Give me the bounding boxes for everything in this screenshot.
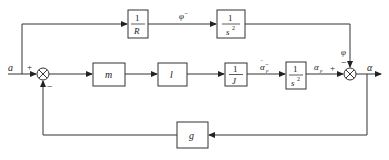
block-R-num: 1: [135, 13, 140, 23]
input-label: a: [8, 62, 13, 73]
block-s2-main-sup: 2: [297, 76, 300, 82]
output-label: α: [367, 62, 373, 73]
block-diagram: a + − m l 1 J 1 s 2 1 R 1 s 2 g φ̈ α̈ p …: [0, 0, 389, 160]
block-g-label: g: [189, 130, 194, 141]
phi-label: φ: [341, 47, 346, 57]
sum2-plus-sign: +: [330, 63, 335, 73]
block-s2-top-num: 1: [228, 13, 233, 23]
block-l-label: l: [170, 69, 173, 80]
block-s2-main-den: s: [291, 78, 295, 88]
block-s2-top-den: s: [226, 27, 230, 37]
sum1-plus-sign: +: [27, 62, 32, 72]
summing-junction-2: [344, 68, 356, 80]
sum1-minus-sign: −: [47, 81, 53, 92]
block-m-label: m: [105, 69, 112, 80]
block-s2-main-num: 1: [293, 64, 298, 74]
block-s2-top-sup: 2: [232, 25, 235, 31]
alpha-ddot-p-sub: p: [265, 68, 269, 73]
phi-ddot-label: φ̈: [179, 11, 188, 21]
block-R-den: R: [133, 26, 140, 36]
alpha-p-sub: p: [319, 68, 323, 73]
alpha-p-label: α: [314, 62, 319, 72]
sum2-minus-sign: −: [341, 57, 347, 68]
summing-junction-1: [37, 68, 49, 80]
block-J-num: 1: [233, 64, 238, 74]
feedback-wire-out: [43, 81, 177, 135]
